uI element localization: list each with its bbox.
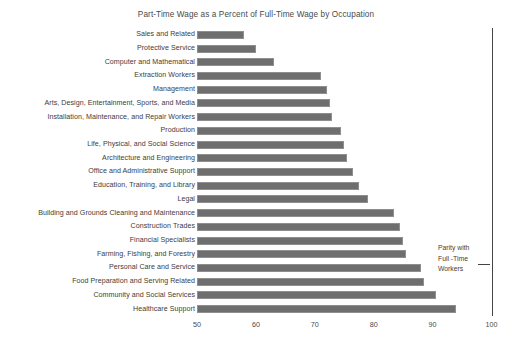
chart-row: Financial Specialists [0, 234, 512, 248]
parity-reference-line [492, 28, 494, 316]
category-label: Legal [0, 195, 195, 204]
x-axis-tick-label: 80 [370, 320, 378, 329]
category-label: Building and Grounds Cleaning and Mainte… [0, 209, 195, 218]
chart-row: Personal Care and Service [0, 261, 512, 275]
chart-row: Arts, Design, Entertainment, Sports, and… [0, 97, 512, 111]
bar [197, 209, 394, 217]
category-label: Installation, Maintenance, and Repair Wo… [0, 113, 195, 122]
chart-row: Healthcare Support [0, 302, 512, 316]
chart-container: Part-Time Wage as a Percent of Full-Time… [0, 0, 512, 340]
chart-row: Food Preparation and Serving Related [0, 275, 512, 289]
chart-row: Sales and Related [0, 28, 512, 42]
bar [197, 195, 368, 203]
chart-row: Installation, Maintenance, and Repair Wo… [0, 110, 512, 124]
category-label: Extraction Workers [0, 71, 195, 80]
x-axis-tick-label: 100 [486, 320, 498, 329]
chart-row: Computer and Mathematical [0, 55, 512, 69]
bar [197, 127, 341, 135]
bar [197, 250, 406, 258]
category-label: Life, Physical, and Social Science [0, 140, 195, 149]
category-label: Management [0, 85, 195, 94]
chart-row: Farming, Fishing, and Forestry [0, 247, 512, 261]
x-axis-tick-label: 50 [193, 320, 201, 329]
category-label: Computer and Mathematical [0, 58, 195, 67]
bar [197, 86, 327, 94]
category-label: Healthcare Support [0, 305, 195, 314]
category-label: Arts, Design, Entertainment, Sports, and… [0, 99, 195, 108]
category-label: Office and Administrative Support [0, 167, 195, 176]
bar [197, 168, 353, 176]
parity-annotation-line-3: Workers [438, 264, 484, 275]
chart-row: Extraction Workers [0, 69, 512, 83]
category-label: Financial Specialists [0, 236, 195, 245]
bar [197, 223, 400, 231]
category-label: Community and Social Services [0, 291, 195, 300]
bar [197, 45, 256, 53]
x-axis-tick-label: 90 [429, 320, 437, 329]
category-label: Sales and Related [0, 30, 195, 39]
bar [197, 99, 330, 107]
bar [197, 72, 321, 80]
category-label: Architecture and Engineering [0, 154, 195, 163]
category-label: Farming, Fishing, and Forestry [0, 250, 195, 259]
bar [197, 237, 403, 245]
bar [197, 278, 424, 286]
chart-row: Construction Trades [0, 220, 512, 234]
category-label: Construction Trades [0, 222, 195, 231]
bar [197, 141, 344, 149]
category-label: Production [0, 126, 195, 135]
chart-row: Community and Social Services [0, 289, 512, 303]
bar [197, 291, 436, 299]
category-label: Personal Care and Service [0, 263, 195, 272]
parity-annotation-line-2: Full -Time [438, 254, 484, 265]
bar [197, 264, 421, 272]
chart-row: Life, Physical, and Social Science [0, 138, 512, 152]
x-axis: 5060708090100 [0, 320, 512, 334]
plot-area: Sales and RelatedProtective ServiceCompu… [0, 28, 512, 316]
parity-annotation: Parity with Full -Time Workers [438, 243, 484, 275]
chart-row: Production [0, 124, 512, 138]
bar [197, 31, 244, 39]
chart-row: Legal [0, 193, 512, 207]
chart-row: Architecture and Engineering [0, 151, 512, 165]
parity-annotation-line-1: Parity with [438, 243, 484, 254]
bar [197, 305, 456, 313]
category-label: Food Preparation and Serving Related [0, 277, 195, 286]
category-label: Education, Training, and Library [0, 181, 195, 190]
bar [197, 113, 332, 121]
category-label: Protective Service [0, 44, 195, 53]
bar [197, 154, 347, 162]
chart-row: Building and Grounds Cleaning and Mainte… [0, 206, 512, 220]
bar [197, 58, 274, 66]
x-axis-tick-label: 70 [311, 320, 319, 329]
chart-title: Part-Time Wage as a Percent of Full-Time… [0, 10, 512, 19]
chart-row: Office and Administrative Support [0, 165, 512, 179]
chart-row: Protective Service [0, 42, 512, 56]
x-axis-tick-label: 60 [252, 320, 260, 329]
bar [197, 182, 359, 190]
chart-row: Management [0, 83, 512, 97]
chart-row: Education, Training, and Library [0, 179, 512, 193]
